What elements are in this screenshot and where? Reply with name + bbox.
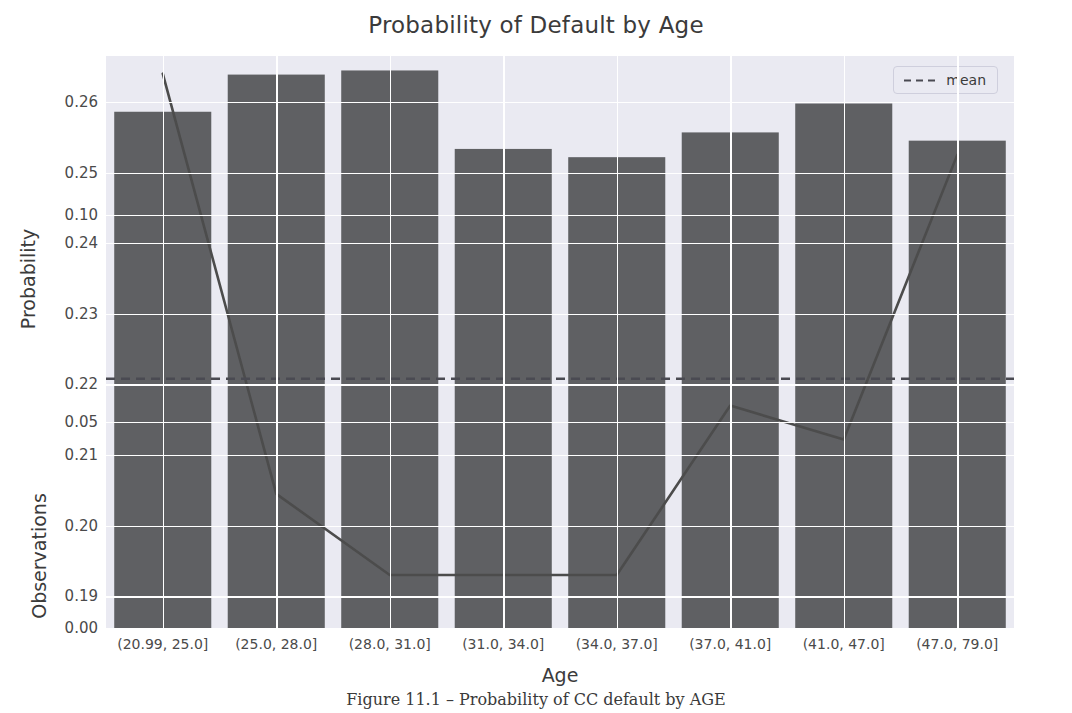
gridline-vertical	[730, 56, 731, 628]
x-tick-label: (31.0, 34.0]	[447, 636, 561, 660]
gridline-horizontal	[106, 173, 1014, 174]
gridline-horizontal	[106, 215, 1014, 216]
y-tick-primary: 0.22	[44, 375, 98, 393]
gridline-vertical	[844, 56, 845, 628]
x-tick-label: (41.0, 47.0]	[787, 636, 901, 660]
legend[interactable]: mean	[893, 66, 998, 94]
figure-caption: Figure 11.1 – Probability of CC default …	[0, 690, 1072, 713]
gridline-vertical	[617, 56, 618, 628]
gridline-horizontal	[106, 455, 1014, 456]
probability-line	[106, 56, 1014, 628]
x-tick-label: (37.0, 41.0]	[674, 636, 788, 660]
gridline-horizontal	[106, 243, 1014, 244]
y-tick-primary: 0.26	[44, 93, 98, 111]
gridline-vertical	[503, 56, 504, 628]
y-tick-primary: 0.24	[44, 234, 98, 252]
plot-area: mean	[106, 56, 1014, 628]
gridline-horizontal	[106, 526, 1014, 527]
y-axis-label-primary: Probability	[17, 179, 39, 379]
y-tick-secondary: 0.05	[44, 413, 98, 431]
y-tick-secondary: 0.00	[44, 619, 98, 637]
x-tick-label: (34.0, 37.0]	[560, 636, 674, 660]
y-tick-primary: 0.21	[44, 446, 98, 464]
x-axis-label: Age	[106, 664, 1014, 686]
x-tick-label: (20.99, 25.0]	[106, 636, 220, 660]
y-axis-label-secondary: Observations	[28, 461, 50, 651]
gridline-horizontal	[106, 314, 1014, 315]
x-tick-label: (28.0, 31.0]	[333, 636, 447, 660]
x-tick-label: (47.0, 79.0]	[901, 636, 1015, 660]
chart-title: Probability of Default by Age	[0, 12, 1072, 38]
gridline-horizontal	[106, 596, 1014, 597]
gridline-horizontal	[106, 384, 1014, 385]
y-tick-primary: 0.20	[44, 517, 98, 535]
gridline-horizontal	[106, 422, 1014, 423]
legend-label-mean: mean	[946, 72, 986, 88]
gridline-vertical	[163, 56, 164, 628]
legend-dash-icon	[903, 75, 937, 86]
gridline-vertical	[390, 56, 391, 628]
y-tick-primary: 0.25	[44, 164, 98, 182]
line-path	[163, 74, 958, 575]
y-tick-secondary: 0.10	[44, 206, 98, 224]
y-tick-primary: 0.23	[44, 305, 98, 323]
x-tick-label: (25.0, 28.0]	[220, 636, 334, 660]
gridline-vertical	[276, 56, 277, 628]
figure: Probability of Default by Age 0.260.250.…	[0, 0, 1072, 713]
x-axis-tick-labels: (20.99, 25.0](25.0, 28.0](28.0, 31.0](31…	[106, 636, 1014, 660]
gridline-horizontal	[106, 102, 1014, 103]
gridline-vertical	[957, 56, 958, 628]
y-tick-primary: 0.19	[44, 587, 98, 605]
